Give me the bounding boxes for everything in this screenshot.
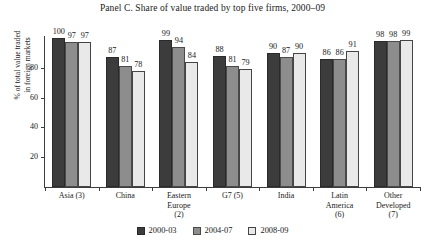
bar-value-label: 87	[108, 46, 116, 55]
bar-value-label: 78	[134, 60, 142, 69]
chart-legend: 2000-032004-072008-09	[0, 226, 425, 235]
legend-swatch	[193, 227, 201, 235]
category-label-line: America	[313, 201, 367, 211]
bar-group: 1009797	[52, 38, 91, 187]
bar-value-label: 87	[282, 46, 290, 55]
x-axis-category-label: Asia (3)	[45, 191, 99, 201]
bar[interactable]: 98	[387, 41, 400, 187]
legend-label: 2004-07	[205, 226, 233, 235]
category-label-line: Europe	[152, 201, 206, 211]
y-axis-tick-label: 60	[20, 93, 38, 102]
legend-item[interactable]: 2000-03	[137, 226, 177, 235]
legend-swatch	[248, 227, 256, 235]
bar-value-label: 99	[402, 29, 410, 38]
bar-value-label: 98	[389, 30, 397, 39]
bar[interactable]: 79	[239, 69, 252, 187]
x-axis-line	[44, 187, 420, 188]
legend-swatch	[137, 227, 145, 235]
y-axis-tick-label: 40	[20, 122, 38, 131]
bar[interactable]: 90	[267, 53, 280, 187]
category-label-line: (2)	[152, 210, 206, 220]
bar-value-label: 90	[295, 42, 303, 51]
bar[interactable]: 98	[374, 41, 387, 187]
bar[interactable]: 97	[78, 42, 91, 187]
bar-value-label: 81	[121, 55, 129, 64]
x-axis-category-label: China	[99, 191, 153, 201]
bar-group: 868691	[320, 38, 359, 187]
bar-group: 989899	[374, 38, 413, 187]
bar-group: 908790	[267, 38, 306, 187]
bar[interactable]: 97	[65, 42, 78, 187]
bar[interactable]: 86	[320, 59, 333, 187]
category-label-line: India	[259, 191, 313, 201]
bar-value-label: 99	[162, 29, 170, 38]
bar-value-label: 86	[336, 48, 344, 57]
y-axis-tick-label: 80	[20, 63, 38, 72]
category-label-line: Other	[366, 191, 420, 201]
bar-value-label: 98	[376, 30, 384, 39]
bar[interactable]: 78	[132, 71, 145, 187]
bar-group: 999484	[159, 38, 198, 187]
bar-group-bars: 999484	[159, 38, 198, 187]
bar[interactable]: 99	[400, 40, 413, 188]
bar-value-label: 90	[269, 42, 277, 51]
category-label-line: China	[99, 191, 153, 201]
bar-value-label: 91	[349, 40, 357, 49]
x-axis-tick	[420, 187, 421, 191]
y-axis-tick-label: 20	[20, 152, 38, 161]
bar-value-label: 97	[68, 31, 76, 40]
bar[interactable]: 87	[106, 57, 119, 187]
chart-panel-c: Panel C. Share of value traded by top fi…	[0, 0, 425, 247]
legend-label: 2008-09	[260, 226, 288, 235]
bar[interactable]: 87	[280, 57, 293, 187]
category-label-line: Developed	[366, 201, 420, 211]
bar-group-bars: 1009797	[52, 38, 91, 187]
x-axis-category-label: EasternEurope(2)	[152, 191, 206, 220]
chart-title: Panel C. Share of value traded by top fi…	[0, 3, 425, 13]
bar-value-label: 81	[228, 55, 236, 64]
bar[interactable]: 100	[52, 38, 65, 187]
bar-value-label: 84	[188, 51, 196, 60]
legend-label: 2000-03	[149, 226, 177, 235]
bar[interactable]: 81	[226, 66, 239, 187]
x-axis-category-label: India	[259, 191, 313, 201]
bar[interactable]: 91	[346, 51, 359, 187]
bar-value-label: 94	[175, 36, 183, 45]
bar-group: 888179	[213, 38, 252, 187]
category-label-line: (6)	[313, 210, 367, 220]
category-label-line: Asia (3)	[45, 191, 99, 201]
bar-value-label: 88	[215, 45, 223, 54]
bar-group-bars: 878178	[106, 38, 145, 187]
bar[interactable]: 88	[213, 56, 226, 187]
bar-group-bars: 888179	[213, 38, 252, 187]
category-label-line: G7 (5)	[206, 191, 260, 201]
legend-item[interactable]: 2004-07	[193, 226, 233, 235]
bar-group-bars: 868691	[320, 38, 359, 187]
bar-group: 878178	[106, 38, 145, 187]
bar[interactable]: 94	[172, 47, 185, 187]
category-label-line: Eastern	[152, 191, 206, 201]
legend-item[interactable]: 2008-09	[248, 226, 288, 235]
x-axis-category-label: LatinAmerica(6)	[313, 191, 367, 220]
bar-value-label: 97	[81, 31, 89, 40]
x-axis-category-label: OtherDeveloped(7)	[366, 191, 420, 220]
bar-value-label: 86	[323, 48, 331, 57]
plot-area: 1009797878178999484888179908790868691989…	[45, 38, 420, 187]
bar-value-label: 79	[241, 58, 249, 67]
bar[interactable]: 99	[159, 40, 172, 188]
bar[interactable]: 90	[293, 53, 306, 187]
bar-group-bars: 989899	[374, 38, 413, 187]
bar[interactable]: 81	[119, 66, 132, 187]
x-axis-category-label: G7 (5)	[206, 191, 260, 201]
bar[interactable]: 86	[333, 59, 346, 187]
category-label-line: (7)	[366, 210, 420, 220]
category-label-line: Latin	[313, 191, 367, 201]
bar-group-bars: 908790	[267, 38, 306, 187]
bar[interactable]: 84	[185, 62, 198, 187]
bar-value-label: 100	[53, 27, 65, 36]
